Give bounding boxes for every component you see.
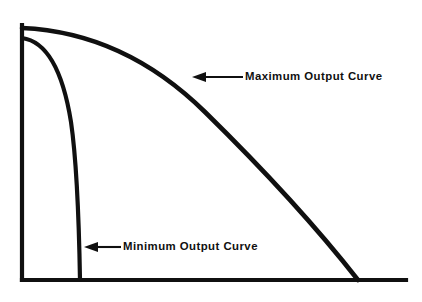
figure-root: Maximum Output Curve Minimum Output Curv… bbox=[0, 0, 422, 302]
maximum-callout-label: Maximum Output Curve bbox=[245, 70, 382, 82]
figure-background bbox=[0, 0, 422, 302]
output-curve-figure: Maximum Output Curve Minimum Output Curv… bbox=[0, 0, 422, 302]
minimum-callout-label: Minimum Output Curve bbox=[123, 240, 258, 252]
